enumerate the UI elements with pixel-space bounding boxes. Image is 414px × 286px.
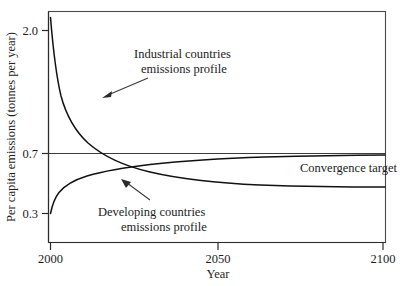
developing-annotation-line1: Developing countries: [98, 205, 205, 219]
convergence-target-label: Convergence target: [300, 161, 398, 175]
x-axis-title: Year: [206, 267, 230, 281]
developing-annotation-line2: emissions profile: [121, 220, 207, 234]
y-tick-label-2.0: 2.0: [22, 24, 38, 38]
y-axis-title: Per capita emissions (tonnes per year): [4, 32, 18, 222]
x-tick-label-2050: 2050: [206, 252, 231, 266]
industrial-annotation-line2: emissions profile: [141, 62, 227, 76]
emissions-convergence-chart: 2.0 0.7 0.3 Per capita emissions (tonnes…: [0, 0, 414, 286]
x-tick-label-2100: 2100: [371, 252, 396, 266]
industrial-annotation-line1: Industrial countries: [134, 47, 231, 61]
y-tick-label-0.3: 0.3: [22, 207, 38, 221]
y-tick-label-0.7: 0.7: [22, 147, 38, 161]
x-tick-label-2000: 2000: [38, 252, 63, 266]
chart-figure: 2.0 0.7 0.3 Per capita emissions (tonnes…: [0, 0, 414, 286]
